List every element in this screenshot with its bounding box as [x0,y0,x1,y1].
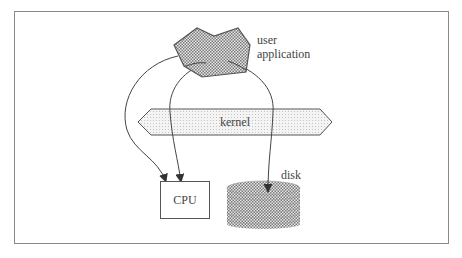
disk-stack-icon [227,181,300,229]
diagram-svg: kernel user application CPU [0,0,462,258]
disk-label: disk [281,168,301,182]
kernel-label: kernel [220,115,251,129]
kernel-node: kernel [138,109,332,135]
cpu-label: CPU [173,193,197,207]
diagram-canvas: kernel user application CPU [0,0,462,258]
cpu-node: CPU [161,182,210,219]
user-application-label-line2: application [257,47,310,61]
user-application-label-line1: user [257,33,277,47]
